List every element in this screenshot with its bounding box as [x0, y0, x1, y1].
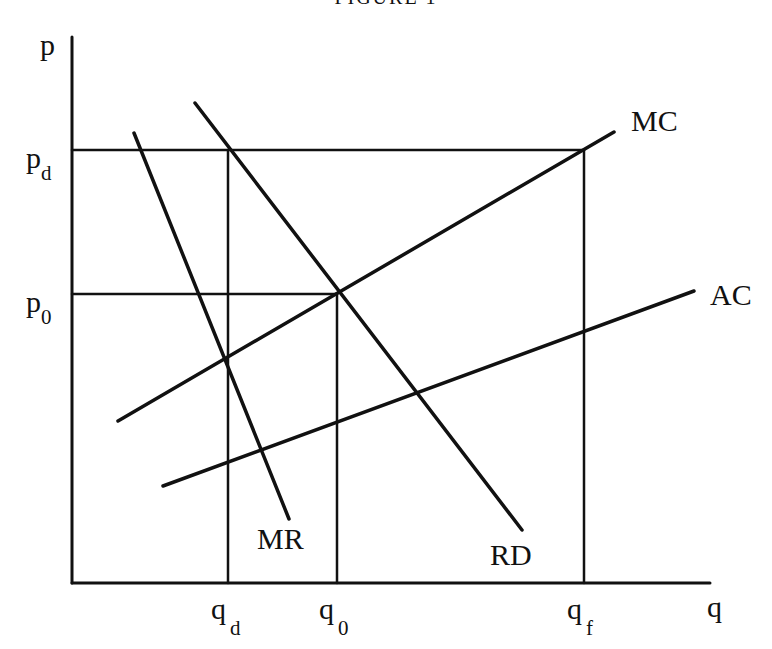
price-label-p0-base: p: [26, 285, 41, 318]
price-label-pd-sub: d: [41, 161, 52, 185]
quantity-label-q0: q 0: [319, 594, 349, 624]
ac-curve: [163, 291, 694, 486]
quantity-label-qd: q d: [211, 594, 241, 624]
quantity-label-qf: q f: [567, 594, 593, 624]
quantity-label-q0-base: q: [319, 592, 334, 625]
price-label-pd: pd: [26, 143, 52, 173]
quantity-label-qf-sub: f: [586, 616, 593, 640]
quantity-label-qf-base: q: [567, 592, 582, 625]
price-label-p0: p0: [26, 287, 52, 317]
price-label-pd-base: p: [26, 141, 41, 174]
price-label-p0-sub: 0: [41, 305, 52, 329]
quantity-label-q0-sub: 0: [338, 616, 349, 640]
y-axis-label: p: [40, 30, 55, 60]
ac-curve-label: AC: [710, 280, 752, 310]
mr-curve-label: MR: [257, 524, 304, 554]
economics-diagram: [0, 0, 772, 649]
rd-curve-label: RD: [490, 540, 532, 570]
rd-curve: [195, 103, 522, 530]
mr-curve: [134, 133, 289, 519]
mc-curve-label: MC: [631, 106, 678, 136]
quantity-label-qd-base: q: [211, 592, 226, 625]
quantity-label-qd-sub: d: [230, 616, 241, 640]
x-axis-label: q: [707, 592, 722, 622]
